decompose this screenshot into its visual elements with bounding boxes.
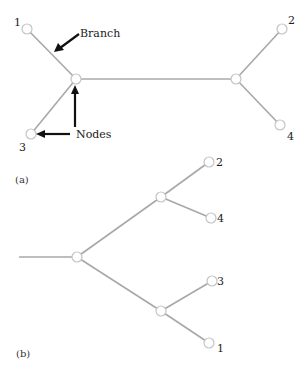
branch-4 [161, 197, 211, 218]
branch-2 [236, 29, 282, 79]
tip-node-1 [22, 24, 32, 34]
internal-node-right [231, 74, 241, 84]
branch-arrow [60, 34, 79, 48]
internal-node-lower [156, 306, 166, 316]
nodes-arrowhead-left-icon [36, 130, 45, 138]
tip-label-4: 4 [287, 130, 294, 143]
branch-4 [236, 79, 280, 125]
tip-label-1: 1 [14, 16, 21, 29]
tip-node-1 [204, 338, 214, 348]
internal-node-upper [156, 192, 166, 202]
branch-1 [27, 29, 76, 79]
panel-b-caption: (b) [16, 348, 30, 359]
tip-node-4 [206, 213, 216, 223]
panel-a-unrooted-tree: 1 2 3 4 Branch Nodes (a) [14, 14, 295, 185]
tip-node-4 [275, 120, 285, 130]
panel-a-caption: (a) [15, 174, 29, 185]
branch-1 [161, 311, 209, 343]
tip-node-3 [26, 129, 36, 139]
branch-annotation: Branch [80, 27, 120, 40]
branch-root-upper [77, 197, 161, 257]
internal-node-left [71, 74, 81, 84]
tip-label-2: 2 [216, 156, 223, 169]
tip-node-2 [277, 24, 287, 34]
branch-3 [161, 281, 212, 311]
tip-label-4: 4 [217, 212, 224, 225]
panel-b-rooted-tree: 2 4 3 1 (b) [16, 156, 224, 359]
nodes-arrowhead-up-icon [71, 85, 79, 94]
nodes-annotation: Nodes [76, 128, 112, 141]
branch-3 [31, 79, 76, 134]
branch-root-lower [77, 257, 161, 311]
tip-label-2: 2 [288, 14, 295, 27]
tip-node-3 [207, 276, 217, 286]
phylogenetic-tree-figure: 1 2 3 4 Branch Nodes (a) 2 4 3 1 [0, 0, 307, 374]
tip-label-1: 1 [217, 342, 224, 355]
tip-label-3: 3 [19, 141, 26, 154]
tip-label-3: 3 [217, 275, 224, 288]
root-node [72, 252, 82, 262]
tip-node-2 [204, 157, 214, 167]
branch-2 [161, 162, 209, 197]
